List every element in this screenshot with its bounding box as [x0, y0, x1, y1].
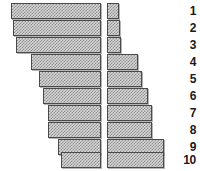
bar-row [0, 88, 170, 104]
row-label-1: 1 [170, 3, 196, 19]
bar-row [0, 152, 170, 168]
bar-right-6[interactable] [107, 88, 148, 104]
bar-left-4[interactable] [31, 54, 101, 70]
bar-left-10[interactable] [61, 152, 101, 168]
bar-row [0, 122, 170, 138]
bar-right-4[interactable] [107, 54, 138, 70]
bar-right-8[interactable] [107, 122, 152, 138]
chart-plot-area [0, 0, 170, 171]
bar-row [0, 54, 170, 70]
bar-right-2[interactable] [107, 20, 120, 36]
category-labels-column: 1 2 3 4 5 6 7 8 9 10 [170, 0, 200, 171]
bar-row [0, 71, 170, 87]
center-axis-gutter [102, 0, 106, 171]
row-label-5: 5 [170, 71, 196, 87]
bar-row [0, 37, 170, 53]
bar-right-7[interactable] [107, 105, 152, 121]
row-label-3: 3 [170, 37, 196, 53]
bar-right-1[interactable] [107, 3, 119, 19]
bar-left-5[interactable] [39, 71, 101, 87]
bar-row [0, 20, 170, 36]
bar-right-5[interactable] [107, 71, 142, 87]
bar-left-2[interactable] [13, 20, 101, 36]
row-label-4: 4 [170, 54, 196, 70]
bar-right-3[interactable] [107, 37, 121, 53]
row-label-10: 10 [170, 152, 196, 168]
bar-row [0, 105, 170, 121]
bar-left-7[interactable] [48, 105, 101, 121]
row-label-8: 8 [170, 122, 196, 138]
bar-right-10[interactable] [107, 152, 164, 168]
row-label-6: 6 [170, 88, 196, 104]
row-label-7: 7 [170, 105, 196, 121]
bar-left-6[interactable] [43, 88, 101, 104]
bar-left-8[interactable] [48, 122, 101, 138]
bar-row [0, 3, 170, 19]
row-label-2: 2 [170, 20, 196, 36]
bar-left-3[interactable] [16, 37, 101, 53]
population-pyramid-chart: 1 2 3 4 5 6 7 8 9 10 [0, 0, 200, 171]
bar-left-1[interactable] [11, 3, 101, 19]
